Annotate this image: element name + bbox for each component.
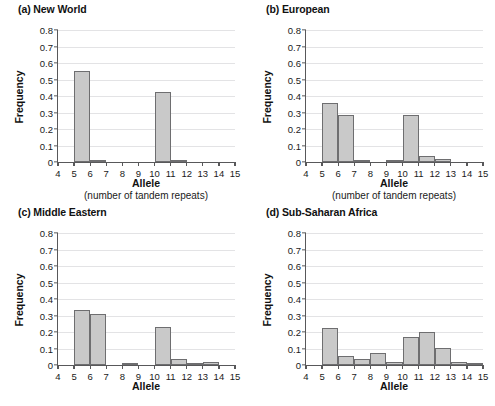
y-tick-mark	[302, 128, 306, 129]
y-tick-label: 0.7	[288, 244, 301, 255]
x-tick-mark	[402, 162, 403, 166]
bar	[419, 332, 435, 365]
y-tick-mark	[302, 112, 306, 113]
plot-area-c: 00.10.20.30.40.50.60.70.8456789101112131…	[57, 233, 235, 366]
bar	[354, 359, 370, 365]
y-tick-label: 0.8	[288, 228, 301, 239]
y-tick-mark	[54, 145, 58, 146]
bar	[435, 348, 451, 365]
y-axis-title-label-b: Frequency	[261, 70, 273, 123]
y-tick-label: 0.1	[40, 140, 53, 151]
bar	[171, 160, 187, 162]
bar	[322, 328, 338, 365]
x-tick-mark	[73, 365, 74, 369]
y-tick-label: 0.3	[40, 310, 53, 321]
gridline	[306, 299, 483, 300]
y-tick-label: 0.7	[40, 41, 53, 52]
y-tick-mark	[54, 62, 58, 63]
bar	[74, 71, 90, 162]
y-tick-label: 0.4	[288, 294, 301, 305]
gridline	[306, 96, 483, 97]
y-axis-title-label-a: Frequency	[13, 70, 25, 123]
x-tick-mark	[305, 365, 306, 369]
x-tick-mark	[234, 365, 235, 369]
x-tick-mark	[138, 162, 139, 166]
y-tick-label: 0.1	[40, 343, 53, 354]
y-tick-label: 0.2	[288, 327, 301, 338]
bar	[90, 314, 106, 365]
bar	[338, 356, 354, 365]
x-tick-mark	[106, 162, 107, 166]
gridline	[306, 283, 483, 284]
x-tick-mark	[354, 162, 355, 166]
y-tick-mark	[54, 112, 58, 113]
y-axis-title-label-c: Frequency	[13, 273, 25, 326]
x-axis-sublabel-b: (number of tandem repeats)	[285, 190, 495, 201]
gridline	[306, 266, 483, 267]
y-tick-label: 0.3	[288, 107, 301, 118]
gridline	[58, 47, 235, 48]
bar	[386, 362, 402, 365]
plot-area-d: 00.10.20.30.40.50.60.70.8456789101112131…	[305, 233, 483, 366]
bar	[451, 362, 467, 365]
panel-title-d: (d) Sub-Saharan Africa	[266, 206, 377, 218]
panel-new-world: (a) New World Frequency 00.10.20.30.40.5…	[0, 0, 247, 203]
x-tick-mark	[106, 365, 107, 369]
gridline	[306, 80, 483, 81]
x-axis-title-b: Allele	[305, 177, 483, 189]
x-tick-mark	[338, 162, 339, 166]
panel-middle-eastern: (c) Middle Eastern Frequency 00.10.20.30…	[0, 203, 247, 406]
y-tick-mark	[302, 46, 306, 47]
y-axis-title-b: Frequency	[260, 30, 274, 163]
gridline	[306, 63, 483, 64]
bar	[386, 160, 402, 162]
x-axis-title-d: Allele	[305, 380, 483, 392]
y-tick-mark	[54, 315, 58, 316]
x-tick-mark	[170, 162, 171, 166]
gridline	[58, 250, 235, 251]
x-tick-mark	[170, 365, 171, 369]
plot-area-a: 00.10.20.30.40.50.60.70.8456789101112131…	[57, 30, 235, 163]
y-tick-mark	[302, 249, 306, 250]
y-tick-label: 0.5	[40, 277, 53, 288]
y-tick-mark	[54, 95, 58, 96]
x-tick-mark	[338, 365, 339, 369]
bar	[370, 353, 386, 365]
gridline	[58, 283, 235, 284]
y-tick-label: 0.5	[288, 74, 301, 85]
y-tick-label: 0.6	[40, 261, 53, 272]
x-tick-mark	[218, 365, 219, 369]
y-tick-label: 0	[296, 360, 301, 371]
y-tick-mark	[302, 298, 306, 299]
y-tick-label: 0.2	[288, 124, 301, 135]
bar	[403, 337, 419, 365]
x-axis-sublabel-a: (number of tandem repeats)	[37, 190, 255, 201]
x-tick-mark	[138, 365, 139, 369]
y-tick-label: 0.3	[288, 310, 301, 321]
y-axis-title-label-d: Frequency	[261, 273, 273, 326]
bar	[74, 310, 90, 365]
x-axis-title-c: Allele	[57, 380, 235, 392]
y-axis-title-a: Frequency	[12, 30, 26, 163]
bar	[467, 363, 483, 365]
x-tick-mark	[402, 365, 403, 369]
y-tick-mark	[302, 29, 306, 30]
bar	[203, 362, 219, 365]
x-tick-mark	[90, 162, 91, 166]
y-tick-label: 0.2	[40, 327, 53, 338]
bar	[155, 92, 171, 162]
gridline	[306, 316, 483, 317]
x-tick-mark	[57, 162, 58, 166]
gridline	[306, 30, 483, 31]
allele-frequency-figure: (a) New World Frequency 00.10.20.30.40.5…	[0, 0, 495, 406]
y-tick-label: 0	[296, 157, 301, 168]
panel-european: (b) European Frequency 00.10.20.30.40.50…	[248, 0, 495, 203]
y-axis-title-d: Frequency	[260, 233, 274, 366]
x-tick-mark	[386, 365, 387, 369]
y-tick-label: 0.6	[288, 261, 301, 272]
y-tick-mark	[54, 282, 58, 283]
x-tick-mark	[154, 365, 155, 369]
y-tick-label: 0.2	[40, 124, 53, 135]
panel-title-c: (c) Middle Eastern	[18, 206, 107, 218]
y-tick-mark	[302, 265, 306, 266]
